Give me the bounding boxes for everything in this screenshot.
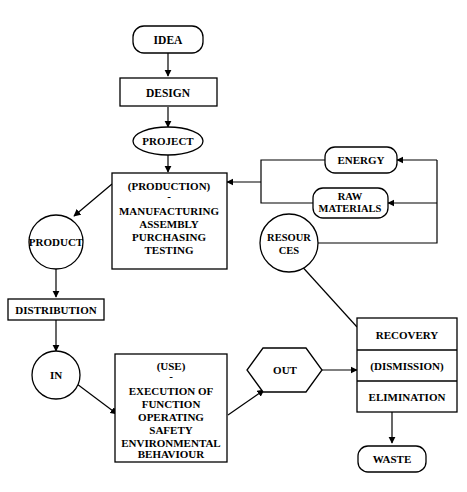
resources-line-1: RESOUR: [267, 232, 311, 243]
use-line-3: OPERATING: [138, 411, 204, 423]
production-separator: -: [167, 190, 171, 202]
edge-in-to-use: [77, 384, 117, 414]
production-line-1: MANUFACTURING: [119, 205, 219, 217]
use-line-4: SAFETY: [149, 424, 192, 436]
raw-materials-line-1: RAW: [338, 191, 363, 202]
node-energy[interactable]: ENERGY: [325, 147, 397, 173]
disposal-row-3: ELIMINATION: [369, 391, 446, 403]
product-label: PRODUCT: [29, 236, 84, 248]
production-line-2: ASSEMBLY: [139, 218, 199, 230]
distribution-label: DISTRIBUTION: [15, 304, 96, 316]
node-distribution[interactable]: DISTRIBUTION: [8, 299, 104, 320]
project-label: PROJECT: [142, 135, 194, 147]
node-product[interactable]: PRODUCT: [29, 215, 84, 269]
node-use[interactable]: (USE) - EXECUTION OF FUNCTION OPERATING …: [115, 354, 227, 462]
node-design[interactable]: DESIGN: [120, 78, 217, 106]
edge-production-to-product: [74, 184, 112, 216]
resources-shape: [260, 214, 318, 272]
disposal-row-2: (DISMISSION): [370, 360, 444, 373]
node-in[interactable]: IN: [32, 351, 80, 399]
node-project[interactable]: PROJECT: [133, 127, 203, 155]
use-line-2: FUNCTION: [142, 398, 201, 410]
raw-materials-line-2: MATERIALS: [319, 203, 382, 214]
idea-label: IDEA: [154, 34, 183, 46]
out-label: OUT: [273, 364, 298, 376]
node-out[interactable]: OUT: [247, 348, 322, 392]
design-label: DESIGN: [146, 87, 191, 99]
production-line-3: PURCHASING: [132, 231, 206, 243]
node-disposal[interactable]: RECOVERY (DISMISSION) ELIMINATION: [357, 318, 457, 412]
energy-label: ENERGY: [337, 154, 384, 166]
node-production[interactable]: (PRODUCTION) - MANUFACTURING ASSEMBLY PU…: [112, 173, 227, 269]
node-resources[interactable]: RESOUR CES: [260, 214, 318, 272]
edge-disposal-to-resources: [298, 262, 357, 327]
node-raw-materials[interactable]: RAW MATERIALS: [313, 188, 388, 218]
use-separator: -: [169, 370, 173, 382]
production-line-4: TESTING: [145, 244, 194, 256]
edge-use-to-out: [228, 390, 264, 415]
disposal-row-1: RECOVERY: [376, 329, 439, 341]
waste-label: WASTE: [373, 453, 412, 465]
node-idea[interactable]: IDEA: [133, 26, 203, 53]
node-waste[interactable]: WASTE: [358, 446, 426, 472]
use-line-6: BEHAVIOUR: [138, 448, 205, 460]
in-label: IN: [50, 369, 62, 381]
flowchart-diagram: IDEA DESIGN PROJECT (PRODUCTION) - MANUF…: [0, 0, 467, 492]
flowchart-canvas: IDEA DESIGN PROJECT (PRODUCTION) - MANUF…: [0, 0, 467, 492]
resources-line-2: CES: [279, 245, 300, 256]
use-line-1: EXECUTION OF: [129, 385, 214, 397]
